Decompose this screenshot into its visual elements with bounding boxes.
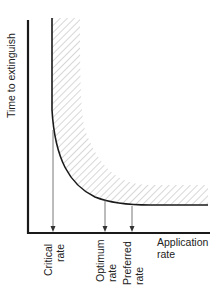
optimum-rate-label-line2: rate bbox=[107, 264, 118, 282]
hatched-region bbox=[40, 15, 215, 215]
critical-rate-label-line1: Critical bbox=[43, 244, 54, 276]
optimum-rate-label-line1: Optimum bbox=[95, 239, 106, 282]
y-axis-label: Time to extinguish bbox=[6, 33, 17, 118]
x-axis-label-line1: Application bbox=[157, 237, 208, 248]
x-axis-label-line2: rate bbox=[157, 249, 175, 260]
extinguish-curve-diagram bbox=[0, 0, 220, 295]
critical-rate-label-line2: rate bbox=[55, 244, 66, 262]
preferred-rate-label-line2: rate bbox=[134, 267, 145, 285]
preferred-rate-label-line1: Preferred bbox=[122, 241, 133, 285]
